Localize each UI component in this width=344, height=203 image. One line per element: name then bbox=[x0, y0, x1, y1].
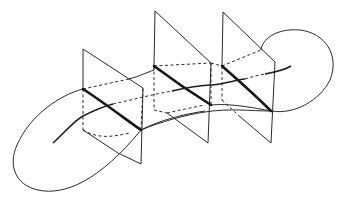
tube-upper-edge bbox=[129, 70, 154, 79]
plane-2 bbox=[154, 11, 211, 143]
tube-outline bbox=[13, 30, 333, 191]
tube-with-planes-diagram bbox=[0, 0, 344, 203]
central-curve-hidden-2 bbox=[245, 74, 265, 79]
central-curve-end bbox=[265, 66, 291, 74]
plane-1 bbox=[83, 49, 143, 164]
central-curve-mid bbox=[172, 79, 245, 91]
plane-3-intersection bbox=[222, 66, 271, 111]
plane-3 bbox=[211, 12, 275, 143]
plane-1-intersection bbox=[83, 89, 141, 130]
hidden-lower-edge-1 bbox=[83, 130, 130, 136]
